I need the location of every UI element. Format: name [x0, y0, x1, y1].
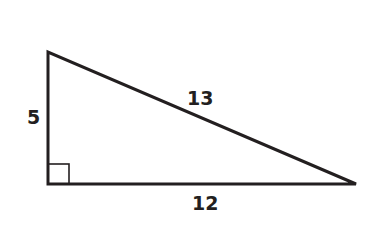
horizontal-leg-label: 12 — [192, 192, 218, 214]
hypotenuse-label: 13 — [187, 87, 213, 109]
right-angle-marker — [48, 164, 69, 184]
vertical-leg-label: 5 — [27, 106, 40, 128]
triangle-outline — [48, 52, 356, 184]
right-triangle-diagram: 5 13 12 — [0, 0, 376, 230]
